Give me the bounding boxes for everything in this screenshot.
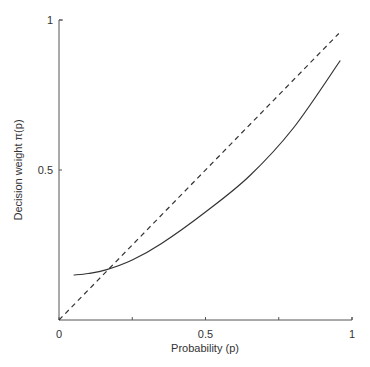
x-tick-label: 0 [56,328,62,340]
y-tick-label: 0.5 [38,164,53,176]
y-axis-label: Decision weight π(p) [12,119,24,220]
x-axis-label: Probability (p) [171,342,239,354]
x-tick-label: 0.5 [198,328,213,340]
x-tick-label: 1 [349,328,355,340]
identity-reference-line [59,34,339,321]
decision-weight-curve [74,61,341,276]
y-tick-label: 1 [47,14,53,26]
data-series [59,34,340,321]
probability-weighting-chart: 00.510.51 Probability (p) Decision weigh… [0,0,370,367]
axis-ticks: 00.510.51 [38,14,355,340]
